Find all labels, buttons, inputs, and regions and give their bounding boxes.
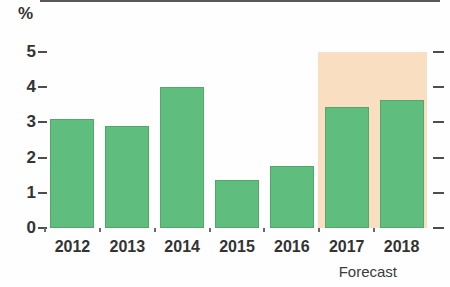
y-axis-tick-label: 0 — [14, 218, 36, 238]
x-axis-label-2014: 2014 — [164, 238, 200, 256]
y-axis-right-tick-mark — [433, 51, 444, 53]
bar-chart: % 012345 2012201320142015201620172018 Fo… — [0, 0, 450, 287]
y-axis-tick-label: 5 — [14, 42, 36, 62]
y-axis-tick-label: 3 — [14, 112, 36, 132]
bar — [160, 87, 204, 228]
x-axis-baseline — [40, 0, 440, 2]
x-axis-label-2013: 2013 — [109, 238, 145, 256]
y-axis-right-tick-mark — [433, 121, 444, 123]
y-axis-right-tick-mark — [433, 192, 444, 194]
bar — [215, 180, 259, 228]
x-axis-tick-mark — [318, 228, 320, 232]
x-axis-tick-mark — [209, 228, 211, 232]
y-axis-tick-mark — [38, 51, 47, 53]
x-axis-tick-mark — [263, 228, 265, 232]
bar — [50, 119, 94, 228]
x-axis-label-2017: 2017 — [329, 238, 365, 256]
x-axis-label-2018: 2018 — [384, 238, 420, 256]
plot-area: % 012345 2012201320142015201620172018 Fo… — [0, 0, 450, 287]
x-axis-label-2012: 2012 — [55, 238, 91, 256]
x-axis-tick-mark — [44, 228, 46, 232]
y-axis-tick-mark — [38, 192, 47, 194]
x-axis-tick-mark — [373, 228, 375, 232]
y-axis-tick-mark — [38, 86, 47, 88]
y-axis-right-tick-mark — [433, 86, 444, 88]
bar — [270, 166, 314, 228]
y-axis-right-tick-mark — [433, 157, 444, 159]
bar — [380, 100, 424, 228]
y-axis-tick-label: 2 — [14, 148, 36, 168]
x-axis-label-2015: 2015 — [219, 238, 255, 256]
y-axis-tick-mark — [38, 157, 47, 159]
bar — [105, 126, 149, 228]
y-axis-right-tick-mark — [433, 227, 444, 229]
forecast-caption: Forecast — [339, 263, 397, 280]
y-axis-unit-label: % — [18, 4, 33, 24]
y-axis-tick-label: 4 — [14, 77, 36, 97]
y-axis-tick-label: 1 — [14, 183, 36, 203]
y-axis-tick-mark — [38, 121, 47, 123]
x-axis-label-2016: 2016 — [274, 238, 310, 256]
x-axis-tick-mark — [99, 228, 101, 232]
bar — [325, 107, 369, 228]
x-axis-tick-mark — [154, 228, 156, 232]
